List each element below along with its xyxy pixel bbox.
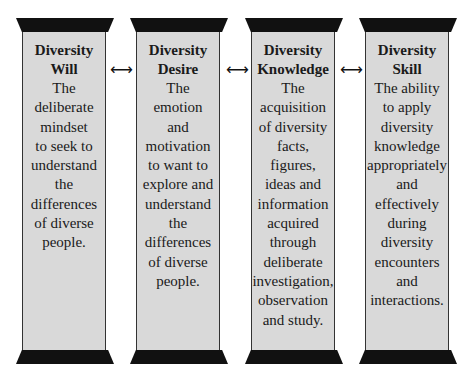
text-line: the <box>23 175 105 194</box>
pillar-capital <box>16 18 114 32</box>
double-headed-arrow-icon: ⟷ <box>110 62 130 78</box>
pillar-base <box>16 350 114 364</box>
double-headed-arrow-icon: ⟷ <box>340 62 360 78</box>
pillar-description: The deliberate mindset to seek to unders… <box>23 79 105 253</box>
text-line: through <box>252 233 334 252</box>
text-line: motivation <box>137 137 219 156</box>
pillar-description: The ability to apply diversity knowledge… <box>366 79 448 311</box>
pillar-description: The acquisition of diversity facts, figu… <box>252 79 334 330</box>
text-line: the <box>137 214 219 233</box>
text-line: The <box>23 79 105 98</box>
pillar-capital <box>130 18 228 32</box>
text-line: facts, <box>252 137 334 156</box>
text-line: emotion <box>137 98 219 117</box>
text-line: diversity <box>366 118 448 137</box>
text-line: ideas and <box>252 175 334 194</box>
text-line: The <box>252 79 334 98</box>
text-line: explore and <box>137 175 219 194</box>
pillar-description: The emotion and motivation to want to ex… <box>137 79 219 291</box>
text-line: interactions. <box>366 291 448 310</box>
pillar-title: Diversity Skill <box>366 41 448 79</box>
text-line: and <box>137 118 219 137</box>
title-line: Skill <box>392 61 421 77</box>
text-line: observation <box>252 291 334 310</box>
text-line: The <box>137 79 219 98</box>
pillar-capital <box>359 18 457 32</box>
title-line: Knowledge <box>257 61 329 77</box>
text-line: deliberate <box>252 253 334 272</box>
text-line: diversity <box>366 233 448 252</box>
pillar-capital <box>245 18 343 32</box>
text-line: people. <box>137 272 219 291</box>
text-line: differences <box>137 233 219 252</box>
text-line: during <box>366 214 448 233</box>
text-line: to want to <box>137 156 219 175</box>
pillar-diversity-knowledge: Diversity Knowledge The acquisition of d… <box>245 18 343 364</box>
pillar-diversity-skill: Diversity Skill The ability to apply div… <box>359 18 457 364</box>
title-line: Desire <box>158 61 199 77</box>
pillar-base <box>130 350 228 364</box>
text-line: of diversity <box>252 118 334 137</box>
pillar-title: Diversity Will <box>23 41 105 79</box>
text-line: of diverse <box>23 214 105 233</box>
title-line: Diversity <box>378 42 436 58</box>
title-line: Will <box>50 61 77 77</box>
text-line: to apply <box>366 98 448 117</box>
text-line: understand <box>137 195 219 214</box>
text-line: appropriately <box>366 156 448 175</box>
pillar-body: Diversity Skill The ability to apply div… <box>365 32 449 350</box>
text-line: understand <box>23 156 105 175</box>
text-line: encounters <box>366 253 448 272</box>
title-line: Diversity <box>35 42 93 58</box>
text-line: acquisition <box>252 98 334 117</box>
pillar-diversity-will: Diversity Will The deliberate mindset to… <box>16 18 114 364</box>
text-line: of diverse <box>137 253 219 272</box>
text-line: information <box>252 195 334 214</box>
title-line: Diversity <box>149 42 207 58</box>
pillar-body: Diversity Knowledge The acquisition of d… <box>251 32 335 350</box>
text-line: figures, <box>252 156 334 175</box>
text-line: differences <box>23 195 105 214</box>
text-line: knowledge <box>366 137 448 156</box>
text-line: deliberate <box>23 98 105 117</box>
text-line: The ability <box>366 79 448 98</box>
pillar-body: Diversity Will The deliberate mindset to… <box>22 32 106 350</box>
pillar-base <box>359 350 457 364</box>
pillar-title: Diversity Desire <box>137 41 219 79</box>
text-line: and study. <box>252 311 334 330</box>
text-line: acquired <box>252 214 334 233</box>
text-line: and <box>366 272 448 291</box>
title-line: Diversity <box>264 42 322 58</box>
pillar-title: Diversity Knowledge <box>252 41 334 79</box>
double-headed-arrow-icon: ⟷ <box>226 62 246 78</box>
pillar-body: Diversity Desire The emotion and motivat… <box>136 32 220 350</box>
pillar-base <box>245 350 343 364</box>
text-line: investigation, <box>252 272 334 291</box>
pillar-diversity-desire: Diversity Desire The emotion and motivat… <box>130 18 228 364</box>
text-line: effectively <box>366 195 448 214</box>
text-line: mindset <box>23 118 105 137</box>
text-line: to seek to <box>23 137 105 156</box>
text-line: and <box>366 175 448 194</box>
text-line: people. <box>23 233 105 252</box>
